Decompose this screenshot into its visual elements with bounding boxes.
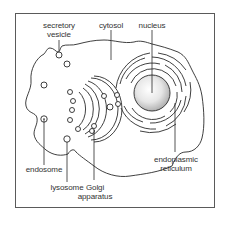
- label-golgi-apparatus: Golgi apparatus: [76, 183, 114, 201]
- secretory-vesicle: [56, 52, 62, 58]
- label-line: apparatus: [76, 192, 114, 201]
- label-secretory-vesicle: secretory vesicle: [36, 21, 82, 39]
- vesicle: [64, 61, 70, 67]
- label-line: reticulum: [150, 164, 202, 173]
- label-cytosol: cytosol: [96, 21, 126, 30]
- golgi-apparatus: [68, 76, 123, 142]
- vesicle: [107, 104, 113, 110]
- label-line: secretory: [36, 21, 82, 30]
- label-nucleus: nucleus: [136, 21, 168, 30]
- label-line: vesicle: [36, 30, 82, 39]
- vesicle: [41, 82, 47, 88]
- lysosome: [64, 136, 70, 142]
- label-endosome: endosome: [24, 165, 64, 174]
- label-endoplasmic-reticulum: endoplasmic reticulum: [150, 155, 202, 173]
- label-line: endoplasmic: [150, 155, 202, 164]
- label-line: Golgi: [76, 183, 114, 192]
